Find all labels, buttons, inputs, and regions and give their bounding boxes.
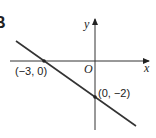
point-label: (0, −2) [98, 87, 130, 99]
point-marker [93, 95, 97, 99]
y-axis-label: y [83, 17, 90, 31]
point-label: (−3, 0) [15, 65, 47, 77]
x-axis-label: x [143, 61, 150, 75]
part-label: B [0, 14, 6, 31]
point-marker [42, 59, 46, 63]
origin-label: O [84, 62, 93, 76]
coordinate-diagram: B y x O (−3, 0) (0, −2) [0, 0, 156, 138]
graph-line [16, 41, 136, 126]
